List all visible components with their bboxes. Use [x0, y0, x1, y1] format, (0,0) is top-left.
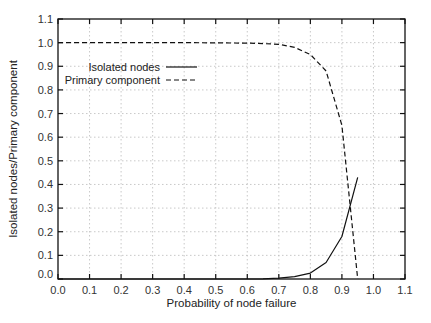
- x-tick-label: 0.1: [82, 284, 97, 296]
- x-tick-label: 0.9: [334, 284, 349, 296]
- x-tick-label: 0.4: [177, 284, 192, 296]
- y-tick-label: 0.4: [38, 178, 53, 190]
- x-tick-label: 0.2: [113, 284, 128, 296]
- x-tick-label: 0.0: [50, 284, 65, 296]
- y-tick-label: 0.5: [38, 155, 53, 167]
- y-tick-label: 0.7: [38, 108, 53, 120]
- y-tick-label: 0.8: [38, 84, 53, 96]
- grid-lines: [58, 19, 405, 279]
- x-tick-label: 0.5: [208, 284, 223, 296]
- legend-label-primary-component: Primary component: [65, 74, 160, 86]
- y-axis-label: Isolated nodes/Primary component: [7, 59, 19, 238]
- x-tick-label: 0.7: [271, 284, 286, 296]
- y-tick-label: 0.3: [38, 202, 53, 214]
- y-tick-label: 1.1: [38, 13, 53, 25]
- x-tick-label: 0.6: [240, 284, 255, 296]
- series-isolated-nodes: [58, 177, 358, 279]
- x-axis-label: Probability of node failure: [167, 297, 297, 309]
- line-chart: 0.00.10.20.30.40.50.60.70.80.91.01.1 0.0…: [0, 0, 431, 323]
- y-tick-label: 0.1: [38, 249, 53, 261]
- x-tick-labels: 0.00.10.20.30.40.50.60.70.80.91.01.1: [50, 284, 412, 296]
- y-tick-label: 1.0: [38, 37, 53, 49]
- y-tick-label: 0.9: [38, 60, 53, 72]
- y-tick-label: 0.2: [38, 226, 53, 238]
- x-tick-label: 1.1: [397, 284, 412, 296]
- y-tick-label: 0.0: [38, 268, 53, 280]
- legend-label-isolated-nodes: Isolated nodes: [88, 61, 160, 73]
- plot-frame: [58, 19, 405, 279]
- x-tick-label: 0.3: [145, 284, 160, 296]
- x-tick-label: 1.0: [366, 284, 381, 296]
- y-tick-labels: 0.00.10.20.30.40.50.60.70.80.91.01.1: [38, 13, 53, 280]
- axis-ticks: [58, 19, 405, 279]
- x-tick-label: 0.8: [303, 284, 318, 296]
- y-tick-label: 0.6: [38, 131, 53, 143]
- legend: Isolated nodes Primary component: [65, 61, 197, 86]
